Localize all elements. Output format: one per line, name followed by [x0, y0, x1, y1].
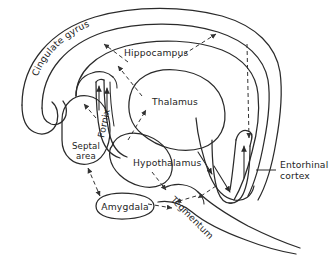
tegmentum-brainstem-outline	[158, 185, 300, 254]
diagram-labels: Cingulate gyrus Hippocampus Thalamus For…	[29, 18, 328, 241]
thalamus-outline	[129, 70, 225, 151]
label-hippocampus: Hippocampus	[124, 47, 189, 58]
label-septal-area-line2: area	[76, 151, 96, 161]
label-entorhinal-cortex-line1: Entorhinal	[280, 159, 328, 170]
diagram-canvas: Cingulate gyrus Hippocampus Thalamus For…	[0, 0, 330, 269]
label-septal-area-line1: Septal	[72, 141, 100, 151]
label-hypothalamus: Hypothalamus	[133, 157, 201, 168]
entorhinal-cortex-outline	[196, 118, 254, 203]
arrow-posterior-to-entorhinal	[247, 44, 249, 138]
arrow-entorhinal-inner-loop	[198, 186, 216, 198]
label-entorhinal-cortex-line2: cortex	[280, 170, 310, 181]
label-cingulate-gyrus: Cingulate gyrus	[29, 18, 90, 78]
arrow-fornix-to-septal	[84, 104, 96, 118]
limbic-system-diagram: Cingulate gyrus Hippocampus Thalamus For…	[0, 0, 330, 269]
arrow-septal-amygdala	[88, 168, 100, 196]
label-cingulate-gyrus-textpath: Cingulate gyrus	[29, 18, 90, 78]
label-tegmentum: Tegmentum	[168, 193, 216, 241]
label-amygdala: Amygdala	[101, 201, 148, 212]
label-thalamus: Thalamus	[151, 96, 198, 107]
arrow-amygdala-to-tegmentum	[148, 204, 172, 208]
